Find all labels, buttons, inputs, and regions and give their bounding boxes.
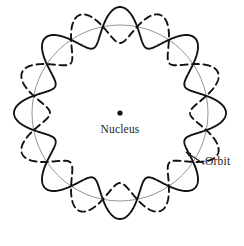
figure-container: Nucleus Orbit xyxy=(0,0,244,246)
orbit-label: Orbit xyxy=(205,155,231,167)
nucleus-dot-icon xyxy=(117,110,122,115)
nucleus-label: Nucleus xyxy=(100,123,139,135)
standing-wave-orbit-diagram: Nucleus Orbit xyxy=(0,0,244,246)
